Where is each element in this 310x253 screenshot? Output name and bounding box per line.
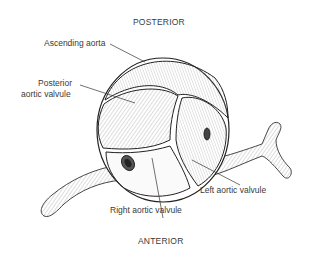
- label-right-aortic-valvule: Right aortic valvule: [110, 205, 182, 215]
- label-posterior-valvule-line2: aortic valvule: [21, 89, 71, 99]
- orientation-anterior: ANTERIOR: [138, 236, 184, 246]
- label-posterior-valvule-line1: Posterior: [38, 78, 72, 88]
- orientation-posterior: POSTERIOR: [133, 17, 185, 27]
- aortic-root: [97, 58, 229, 202]
- label-left-aortic-valvule: Left aortic valvule: [200, 185, 266, 195]
- label-ascending-aorta: Ascending aorta: [44, 38, 105, 48]
